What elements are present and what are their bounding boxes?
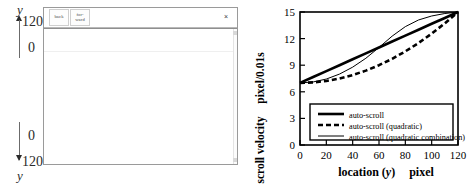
annotated-window-panel: y 120 0 0 120 y back for- ward × [0,0,248,187]
browser-toolbar: back for- ward × [44,8,237,28]
vertical-scrollbar[interactable] [233,29,237,164]
forward-button[interactable]: for- ward [70,9,90,26]
y-tick-labels: 03691215 [284,6,296,151]
axis-value-bottom-120: 120 [22,154,43,170]
chart-svg: 03691215 020406080100120 pixel/0.01s scr… [248,0,472,187]
axis-value-top-0: 0 [28,40,35,56]
x-axis-label-close: ) [391,165,395,179]
axis-value-top-120: 120 [22,14,43,30]
scroll-up-icon[interactable] [233,31,237,35]
y-tick-label: 12 [284,33,295,45]
y-tick-label: 3 [290,112,296,124]
viewport-top-divider [44,28,237,29]
axis-symbol-bottom: y [17,168,23,184]
x-tick-label: 120 [450,149,467,161]
axis-value-bottom-0: 0 [28,128,35,144]
legend-label: auto-scroll (quadratic) [349,122,422,131]
chart-legend: auto-scrollauto-scroll (quadratic)auto-s… [310,104,465,142]
close-icon[interactable]: × [222,13,230,21]
back-button[interactable]: back [49,9,69,26]
x-axis-label-unit: pixel [409,165,434,179]
y-axis-label: scroll velocity [254,116,267,183]
browser-viewport[interactable] [44,28,237,164]
forward-button-label-line1: for- [76,12,83,17]
arrow-up-shaft [19,20,20,58]
scroll-velocity-chart: 03691215 020406080100120 pixel/0.01s scr… [248,0,472,187]
y-tick-label: 9 [290,59,296,71]
legend-label: auto-scroll (quadratic combination) [349,133,465,142]
viewport-faint-rule [44,51,237,52]
x-tick-label: 60 [374,149,386,161]
scroll-down-icon[interactable] [233,158,237,162]
x-tick-labels: 020406080100120 [297,149,467,161]
x-tick-label: 20 [321,149,333,161]
y-tick-label: 15 [284,6,296,18]
x-tick-label: 80 [400,149,412,161]
forward-button-label-line2: ward [75,17,85,22]
x-tick-label: 0 [297,149,303,161]
legend-label: auto-scroll [349,111,385,120]
y-axis-unit-label: pixel/0.01s [254,52,267,104]
x-tick-label: 40 [347,149,359,161]
x-axis-label-main: location ( [338,165,386,179]
x-axis-label: location (y)pixel [338,165,434,179]
x-tick-label: 100 [423,149,440,161]
y-tick-label: 0 [290,139,296,151]
y-tick-label: 6 [290,86,296,98]
browser-window: back for- ward × [43,7,238,165]
